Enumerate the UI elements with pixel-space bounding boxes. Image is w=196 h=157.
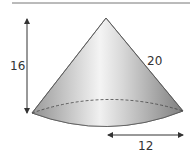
slant-height-label: 20 <box>147 55 162 67</box>
height-label: 16 <box>10 60 25 72</box>
cone-diagram <box>0 0 196 157</box>
radius-label: 12 <box>138 140 153 152</box>
